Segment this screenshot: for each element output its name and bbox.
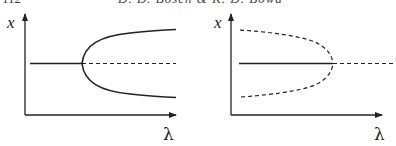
left-plot: x λ (6, 13, 176, 144)
left-x-label: λ (163, 124, 174, 144)
right-y-label: x (213, 13, 222, 32)
left-y-label: x (6, 13, 15, 32)
left-lower-branch (82, 64, 176, 98)
bifurcation-diagrams: x λ x λ (0, 0, 396, 146)
right-x-label: λ (374, 124, 385, 144)
left-upper-branch (82, 30, 176, 64)
right-lower-branch (241, 64, 333, 98)
right-upper-branch (240, 30, 333, 64)
right-plot: x λ (213, 13, 393, 144)
